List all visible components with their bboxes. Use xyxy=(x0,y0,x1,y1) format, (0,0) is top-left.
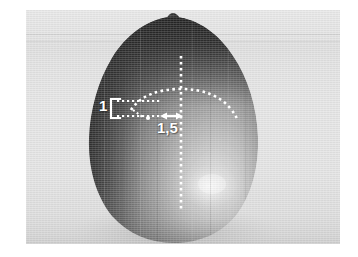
photograph-plate xyxy=(26,10,340,244)
figure-root: 1 1,5 xyxy=(0,0,358,257)
measurement-label-1-5: 1,5 xyxy=(157,120,178,135)
photo-grain xyxy=(26,10,340,244)
measurement-label-1: 1 xyxy=(99,98,107,113)
